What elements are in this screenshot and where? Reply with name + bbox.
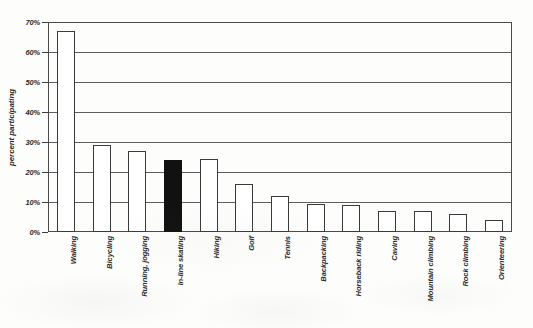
- y-axis: 70%60%50%40%30%20%10%0%: [0, 22, 48, 232]
- bar-slot[interactable]: [405, 22, 441, 232]
- bar[interactable]: [235, 184, 253, 232]
- x-axis-label: In-line skating: [176, 236, 185, 326]
- y-axis-tick-label: 40%: [26, 107, 40, 116]
- x-axis-label: Bicycling: [105, 236, 114, 326]
- y-axis-tick-label: 60%: [26, 47, 40, 56]
- bar[interactable]: [128, 151, 146, 232]
- bar[interactable]: [57, 31, 75, 232]
- y-axis-tick-label: 50%: [26, 77, 40, 86]
- bar-slot[interactable]: [84, 22, 120, 232]
- bar-slot[interactable]: [298, 22, 334, 232]
- y-axis-tick-label: 20%: [26, 167, 40, 176]
- bar[interactable]: [271, 196, 289, 232]
- x-axis-label: Caving: [390, 236, 399, 326]
- bar[interactable]: [485, 220, 503, 232]
- bar-slot[interactable]: [155, 22, 191, 232]
- bars-layer: [48, 22, 512, 232]
- x-axis-label: Horseback riding: [354, 236, 363, 326]
- x-axis-label: Mountain climbing: [426, 236, 435, 326]
- bar-slot[interactable]: [191, 22, 227, 232]
- x-axis-label: Backpacking: [319, 236, 328, 326]
- bar-slot[interactable]: [369, 22, 405, 232]
- bar-slot[interactable]: [48, 22, 84, 232]
- y-axis-tick-label: 10%: [26, 197, 40, 206]
- bar-slot[interactable]: [226, 22, 262, 232]
- x-axis-label: Golf: [247, 236, 256, 326]
- x-axis-label: Hiking: [212, 236, 221, 326]
- x-axis: WalkingBicyclingRunning, joggingIn-line …: [48, 236, 512, 326]
- x-axis-label: Running, jogging: [140, 236, 149, 326]
- bar[interactable]: [414, 211, 432, 232]
- bar[interactable]: [449, 214, 467, 232]
- y-axis-tick-label: 0%: [30, 227, 40, 236]
- x-axis-label: Walking: [69, 236, 78, 326]
- bar-slot[interactable]: [334, 22, 370, 232]
- participation-bar-chart: percent participating 70%60%50%40%30%20%…: [0, 0, 533, 328]
- bar[interactable]: [164, 160, 182, 232]
- y-axis-tick-label: 30%: [26, 137, 40, 146]
- x-axis-label: Tennis: [283, 236, 292, 326]
- bar[interactable]: [342, 205, 360, 232]
- bar-slot[interactable]: [441, 22, 477, 232]
- bar[interactable]: [307, 204, 325, 233]
- y-axis-tick-label: 70%: [26, 17, 40, 26]
- bar[interactable]: [378, 211, 396, 232]
- bar-slot[interactable]: [476, 22, 512, 232]
- bar-slot[interactable]: [262, 22, 298, 232]
- bar-slot[interactable]: [119, 22, 155, 232]
- bar[interactable]: [200, 159, 218, 233]
- bar[interactable]: [93, 145, 111, 232]
- x-axis-label: Orienteering: [497, 236, 506, 326]
- x-axis-label: Rock climbing: [461, 236, 470, 326]
